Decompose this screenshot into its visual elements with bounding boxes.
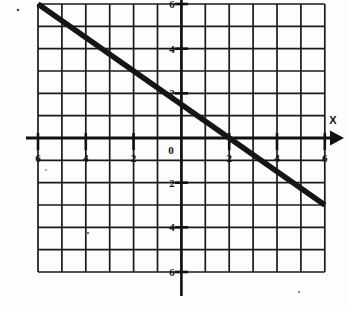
x-tick-label-pos2: 2 [226,152,232,164]
y-tick-label-pos4: 4 [169,43,175,55]
graph-figure: 6 4 2 2 4 6 6 4 2 2 4 6 0 X [0,0,348,310]
x-tick-label-pos4: 4 [274,152,280,164]
coordinate-plane: 6 4 2 2 4 6 6 4 2 2 4 6 0 X [0,0,348,310]
y-tick-label-neg6: 6 [169,266,175,278]
y-tick-label-neg4: 4 [169,221,175,233]
origin-label: 0 [168,144,174,156]
y-tick-label-neg2: 2 [169,177,175,189]
y-tick-label-pos2: 2 [169,87,175,99]
x-tick-label-neg6: 6 [35,152,41,164]
x-tick-label-neg4: 4 [83,152,89,164]
x-axis-label: X [329,114,337,126]
y-tick-label-pos6: 6 [169,0,175,10]
x-tick-label-pos6: 6 [322,152,328,164]
x-tick-label-neg2: 2 [131,152,137,164]
